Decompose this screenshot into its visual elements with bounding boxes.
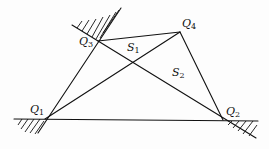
ground-line <box>14 119 258 121</box>
geometry-figure <box>0 0 269 149</box>
diagram-canvas: Q1 Q2 Q3 Q4 S1 S2 <box>0 0 269 149</box>
label-s2: S2 <box>172 67 185 80</box>
hatch-q1 <box>18 119 44 134</box>
label-q2: Q2 <box>226 106 240 119</box>
label-q3: Q3 <box>79 36 93 49</box>
label-q1: Q1 <box>30 104 44 117</box>
edge-q4-q2 <box>180 32 223 120</box>
label-s1: S1 <box>127 42 140 55</box>
edge-q1-q4 <box>45 32 180 119</box>
label-q4: Q4 <box>182 18 196 31</box>
line-q3-q1-extended <box>38 8 121 133</box>
